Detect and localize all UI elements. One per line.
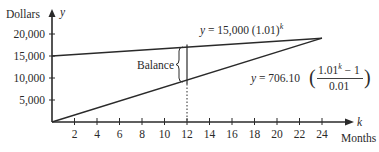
right-paren-icon: ) [364,66,371,89]
x-tick-label: 6 [117,128,123,140]
eq1-body: = 15,000 (1.01) [205,24,280,37]
x-axis-arrow-icon [345,119,354,126]
y-tick-label: 15,000 [13,50,45,63]
y-tick-label: 20,000 [13,28,45,41]
balance-brace-icon [176,47,183,82]
x-tick-label: 10 [159,128,171,140]
x-tick-label: 20 [271,128,283,140]
y-axis-arrow-icon [49,9,56,17]
y-axis [49,9,56,122]
x-axis-title: Months [341,132,377,144]
eq1-exponent: k [280,22,284,31]
x-tick-label: 18 [249,128,261,140]
x-tick-label: 12 [181,128,193,140]
eq2-numerator: 1.01k − 1 [318,62,360,76]
eq2-denominator: 0.01 [329,80,349,92]
x-tick-label: 14 [204,128,216,140]
svg-text:y = 15,000 (1.01)k: y = 15,000 (1.01)k [199,22,284,37]
x-tick-label: 2 [72,128,78,140]
x-tick-label: 24 [316,128,328,140]
equation-compound-label: y = 15,000 (1.01)k [199,22,284,37]
x-axis-variable: k [357,116,363,128]
balance-label: Balance [137,59,174,71]
x-tick-label: 4 [94,128,100,140]
svg-text:y = 706.10: y = 706.10 [250,72,300,85]
x-tick-label: 22 [294,128,306,140]
y-axis-title: Dollars [6,8,40,20]
x-tick-label: 16 [226,128,238,140]
y-axis-variable: y [59,6,66,19]
chart: 5,000 10,000 15,000 20,000 2 4 6 8 10 12… [0,0,379,152]
y-tick-label: 5,000 [19,94,45,107]
y-tick-label: 10,000 [13,72,45,85]
y-ticks: 5,000 10,000 15,000 20,000 [13,28,55,107]
equation-annuity-label: y = 706.10 ( 1.01k − 1 0.01 ) [250,62,371,92]
x-tick-label: 8 [139,128,145,140]
left-paren-icon: ( [309,66,316,89]
